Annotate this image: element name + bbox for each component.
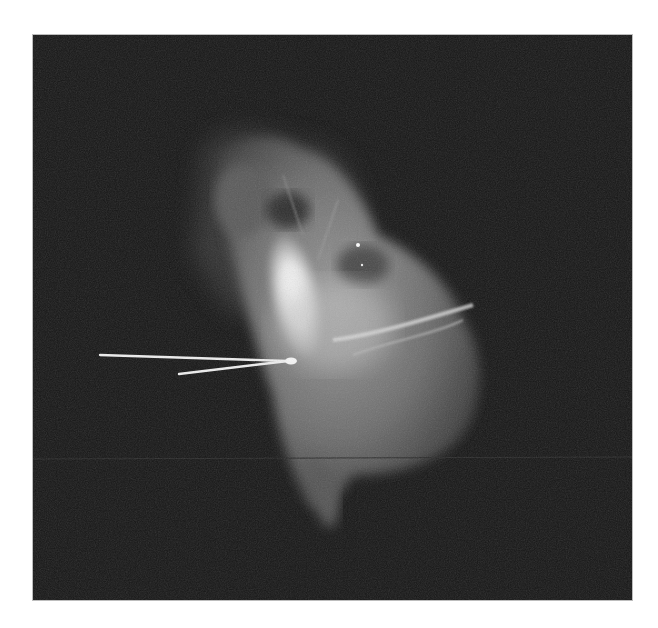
film-grain (33, 35, 632, 600)
radiograph-image (33, 35, 632, 600)
radiograph-svg (33, 35, 632, 600)
